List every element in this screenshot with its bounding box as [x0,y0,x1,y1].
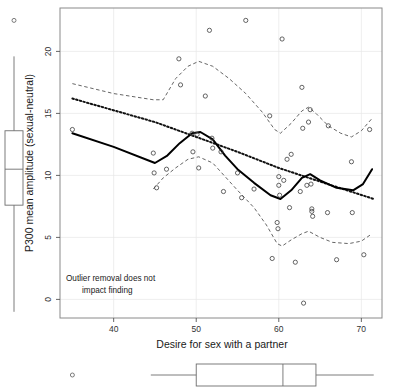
x-tick-label: 50 [191,324,201,334]
x-axis-label: Desire for sex with a partner [156,338,288,350]
annotation-line-1: Outlier removal does not [66,274,156,283]
y-axis-label: P300 mean amplitude (sexual-neutral) [23,74,35,252]
x-boxplot-box [196,364,316,386]
y-boxplot-box [5,131,23,205]
x-tick-label: 70 [357,324,367,334]
y-tick-label: 15 [43,108,53,118]
y-tick-label: 0 [43,297,53,302]
scatter-plot-figure: 4050607005101520 Desire for sex with a p… [0,0,393,392]
figure-canvas: 4050607005101520 Desire for sex with a p… [0,0,393,392]
annotation-line-2: impact finding [82,286,133,295]
x-tick-label: 60 [274,324,284,334]
y-tick-label: 20 [43,46,53,56]
x-tick-label: 40 [109,324,119,334]
y-tick-label: 5 [43,235,53,240]
y-tick-label: 10 [43,170,53,180]
